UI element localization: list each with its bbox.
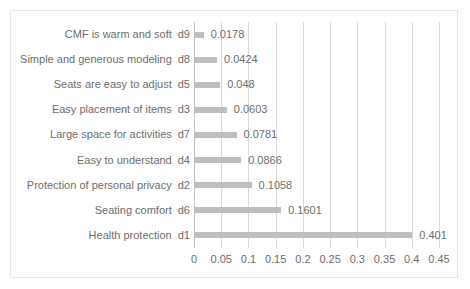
x-tick-label: 0	[191, 254, 197, 265]
category-code: d2	[178, 180, 190, 191]
bar-row: 0.0424	[194, 47, 470, 72]
x-tick-label: 0.15	[265, 254, 286, 265]
category-label: Protection of personal privacy	[27, 180, 172, 191]
bar-row: 0.0178	[194, 22, 470, 47]
category-label: Simple and generous modeling	[20, 54, 172, 65]
bar-row: 0.0603	[194, 97, 470, 122]
x-tick-label: 0.35	[374, 254, 395, 265]
category-axis-labels: CMF is warm and softd9Simple and generou…	[11, 22, 190, 248]
category-label: Easy to understand	[77, 155, 172, 166]
category-label-row: Simple and generous modelingd8	[11, 47, 190, 72]
bar-value-label: 0.0424	[224, 54, 258, 65]
category-label-row: CMF is warm and softd9	[11, 22, 190, 47]
x-tick-label: 0.45	[428, 254, 449, 265]
bar-value-label: 0.401	[419, 230, 447, 241]
bar-row: 0.048	[194, 72, 470, 97]
bar	[194, 232, 412, 238]
bar	[194, 57, 217, 63]
x-tick-label: 0.4	[404, 254, 419, 265]
x-tick-label: 0.1	[241, 254, 256, 265]
bar	[194, 82, 220, 88]
bar-row: 0.0866	[194, 148, 470, 173]
category-label: Large space for activities	[50, 129, 172, 140]
category-code: d9	[178, 29, 190, 40]
category-code: d1	[178, 230, 190, 241]
bar-row: 0.1601	[194, 198, 470, 223]
bar-value-label: 0.048	[227, 79, 255, 90]
x-tick-label: 0.2	[295, 254, 310, 265]
bar-value-label: 0.0603	[234, 104, 268, 115]
bar-value-label: 0.0781	[244, 129, 278, 140]
category-code: d8	[178, 54, 190, 65]
category-label: CMF is warm and soft	[65, 29, 172, 40]
bar-series: 0.01780.04240.0480.06030.07810.08660.105…	[194, 22, 439, 248]
bar-value-label: 0.0866	[248, 155, 282, 166]
category-label: Seating comfort	[95, 205, 172, 216]
x-axis-tick-labels: 00.050.10.150.20.250.30.350.40.45	[194, 254, 439, 272]
category-code: d5	[178, 79, 190, 90]
bar-value-label: 0.1058	[259, 180, 293, 191]
category-code: d6	[178, 205, 190, 216]
bar	[194, 207, 281, 213]
bar-row: 0.0781	[194, 122, 470, 147]
bar-row: 0.401	[194, 223, 470, 248]
bar-value-label: 0.1601	[288, 205, 322, 216]
category-label-row: Easy to understandd4	[11, 148, 190, 173]
bar	[194, 32, 204, 38]
category-label-row: Seats are easy to adjustd5	[11, 72, 190, 97]
category-code: d4	[178, 155, 190, 166]
bar	[194, 107, 227, 113]
bar	[194, 132, 237, 138]
category-label-row: Large space for activitiesd7	[11, 122, 190, 147]
bar	[194, 157, 241, 163]
category-label-row: Easy placement of itemsd3	[11, 97, 190, 122]
category-code: d3	[178, 104, 190, 115]
x-tick-label: 0.05	[211, 254, 232, 265]
category-label: Seats are easy to adjust	[54, 79, 172, 90]
category-label-row: Seating comfortd6	[11, 198, 190, 223]
category-label-row: Health protectiond1	[11, 223, 190, 248]
chart-figure: CMF is warm and softd9Simple and generou…	[10, 10, 458, 278]
category-code: d7	[178, 129, 190, 140]
bar-value-label: 0.0178	[211, 29, 245, 40]
bar	[194, 182, 252, 188]
plot-area: 0.01780.04240.0480.06030.07810.08660.105…	[194, 22, 439, 248]
category-label: Health protection	[89, 230, 172, 241]
bar-row: 0.1058	[194, 173, 470, 198]
category-label-row: Protection of personal privacyd2	[11, 173, 190, 198]
x-tick-label: 0.3	[350, 254, 365, 265]
x-tick-label: 0.25	[319, 254, 340, 265]
category-label: Easy placement of items	[52, 104, 172, 115]
